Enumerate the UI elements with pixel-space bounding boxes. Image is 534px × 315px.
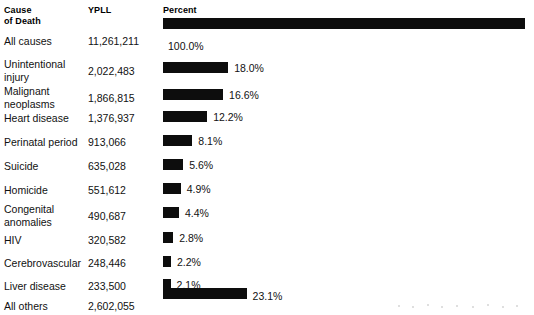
row-percent-label: 100.0%	[168, 41, 204, 52]
row-cause-line1: Unintentional	[4, 58, 86, 71]
row-cause-line1: Heart disease	[4, 112, 86, 125]
row-cause-line1: HIV	[4, 234, 86, 247]
row-cause-label: HIV	[4, 234, 86, 247]
row-ypll-value: 551,612	[88, 184, 160, 197]
row-cause-label: Suicide	[4, 160, 86, 173]
row-cause-line1: Homicide	[4, 184, 86, 197]
row-ypll-value: 248,446	[88, 257, 160, 270]
row-ypll-value: 2,602,055	[88, 300, 160, 313]
row-cause-label: Perinatal period	[4, 136, 86, 149]
column-header-percent: Percent	[163, 5, 243, 16]
column-header-cause-of-death: Cause of Death	[4, 5, 80, 27]
row-ypll-value: 1,866,815	[88, 92, 160, 105]
row-percent-label: 23.1%	[253, 291, 283, 302]
row-cause-line2: anomalies	[4, 216, 86, 229]
row-percent-bar	[163, 135, 192, 146]
row-cause-line1: All causes	[4, 35, 86, 48]
row-ypll-value: 1,376,937	[88, 112, 160, 125]
row-percent-bar	[163, 183, 181, 194]
row-ypll-value: 635,028	[88, 160, 160, 173]
row-percent-bar	[163, 89, 223, 100]
row-percent-label: 16.6%	[229, 90, 259, 101]
row-cause-line2: injury	[4, 71, 86, 84]
column-header-ypll: YPLL	[88, 5, 148, 16]
row-percent-label: 4.4%	[185, 208, 209, 219]
row-percent-bar	[163, 232, 173, 243]
row-cause-label: Malignantneoplasms	[4, 85, 86, 110]
row-percent-label: 2.2%	[177, 257, 201, 268]
row-percent-label: 4.9%	[187, 184, 211, 195]
row-cause-line1: Cerebrovascular	[4, 257, 86, 270]
chart-page: Cause of Death YPLL Percent All causes11…	[0, 0, 534, 315]
row-cause-label: Cerebrovascular	[4, 257, 86, 270]
column-header-cause-line1: Cause	[4, 5, 80, 16]
row-cause-line1: Congenital	[4, 203, 86, 216]
row-percent-bar	[163, 62, 228, 73]
row-ypll-value: 2,022,483	[88, 65, 160, 78]
row-cause-label: All others	[4, 300, 86, 313]
row-cause-line1: All others	[4, 300, 86, 313]
row-cause-line2: neoplasms	[4, 98, 86, 111]
row-percent-bar	[163, 111, 207, 122]
row-ypll-value: 490,687	[88, 210, 160, 223]
row-cause-line1: Perinatal period	[4, 136, 86, 149]
row-ypll-value: 233,500	[88, 280, 160, 293]
row-percent-bar	[163, 288, 247, 299]
row-cause-line1: Liver disease	[4, 280, 86, 293]
row-percent-label: 8.1%	[198, 136, 222, 147]
row-percent-label: 2.8%	[179, 233, 203, 244]
row-cause-label: Liver disease	[4, 280, 86, 293]
row-cause-label: All causes	[4, 35, 86, 48]
scan-artifact	[395, 303, 527, 309]
row-cause-line1: Suicide	[4, 160, 86, 173]
row-cause-label: Heart disease	[4, 112, 86, 125]
row-percent-bar	[163, 159, 183, 170]
row-percent-label: 18.0%	[234, 63, 264, 74]
row-cause-label: Unintentionalinjury	[4, 58, 86, 83]
row-percent-bar	[163, 256, 171, 267]
row-percent-bar	[163, 18, 525, 29]
row-percent-bar	[163, 207, 179, 218]
row-percent-label: 12.2%	[213, 112, 243, 123]
row-percent-label: 5.6%	[189, 160, 213, 171]
row-ypll-value: 11,261,211	[88, 35, 160, 48]
row-cause-label: Homicide	[4, 184, 86, 197]
column-header-cause-line2: of Death	[4, 16, 80, 27]
row-ypll-value: 320,582	[88, 234, 160, 247]
row-cause-label: Congenitalanomalies	[4, 203, 86, 228]
row-cause-line1: Malignant	[4, 85, 86, 98]
row-ypll-value: 913,066	[88, 136, 160, 149]
